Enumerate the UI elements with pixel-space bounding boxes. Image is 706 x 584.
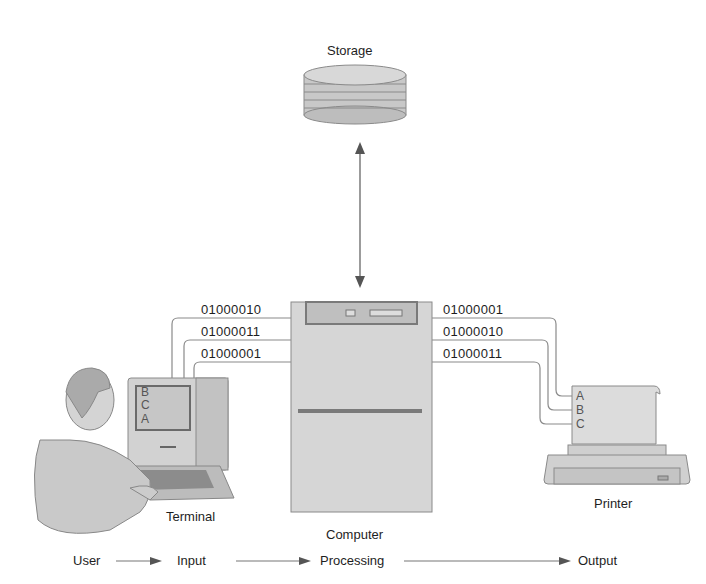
output-signal-1: 01000001 <box>443 302 503 317</box>
flow-output: Output <box>578 553 617 568</box>
input-signal-2: 01000011 <box>201 324 260 339</box>
screen-letter-b: B <box>141 385 149 399</box>
paper-letter-a: A <box>576 389 584 403</box>
paper-letter-c: C <box>576 417 585 431</box>
input-signal-1: 01000010 <box>201 302 261 317</box>
output-signal-2: 01000010 <box>443 324 503 339</box>
output-signal-3: 01000011 <box>443 346 502 361</box>
flow-input: Input <box>177 553 206 568</box>
disk-stack-icon <box>304 65 406 124</box>
paper-letter-b: B <box>576 403 584 417</box>
screen-letter-a: A <box>141 412 149 426</box>
flow-processing: Processing <box>320 553 384 568</box>
printer-label: Printer <box>594 496 632 511</box>
computer-label: Computer <box>326 527 383 542</box>
flow-user: User <box>73 553 100 568</box>
storage-arrow-icon <box>355 142 365 288</box>
terminal-label: Terminal <box>166 509 215 524</box>
screen-letter-c: C <box>141 398 150 412</box>
input-signal-3: 01000001 <box>201 346 261 361</box>
computer-tower <box>291 302 432 512</box>
printer-icon <box>544 386 690 484</box>
storage-label: Storage <box>327 43 373 58</box>
